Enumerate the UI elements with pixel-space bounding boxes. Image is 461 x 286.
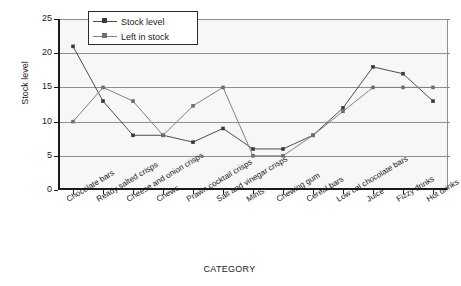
y-axis-title: Stock level [20,38,30,128]
series-point-marker [431,86,435,90]
series-point-marker [101,86,105,90]
y-tick-label: 10 [30,116,52,126]
series-point-marker [161,133,165,137]
series-line [73,87,433,155]
series-point-marker [341,106,345,110]
legend-item-left-in-stock: Left in stock [93,29,193,44]
y-tick-label: 0 [30,184,52,194]
legend-item-label: Left in stock [117,32,169,42]
series-point-marker [191,140,195,144]
y-tick-label: 5 [30,150,52,160]
y-tick-label: 20 [30,47,52,57]
series-point-marker [431,99,435,103]
series-point-marker [221,86,225,90]
series-point-marker [251,154,255,158]
legend-item-stock-level: Stock level [93,14,193,29]
series-point-marker [131,133,135,137]
series-line [73,46,433,149]
series-point-marker [311,133,315,137]
series-point-marker [191,104,195,108]
legend-marker-icon [93,32,117,41]
series-point-marker [371,65,375,69]
series-point-marker [401,86,405,90]
y-tick-label: 25 [30,13,52,23]
series-point-marker [71,120,75,124]
series-point-marker [101,99,105,103]
series-point-marker [341,110,345,114]
series-point-marker [71,45,75,49]
series-point-marker [281,147,285,151]
series-point-marker [371,86,375,90]
series-point-marker [221,127,225,131]
legend-marker-icon [93,17,117,26]
series-point-marker [401,72,405,76]
series-point-marker [251,147,255,151]
x-axis-title: CATEGORY [0,264,459,274]
y-tick-label: 15 [30,81,52,91]
legend-item-label: Stock level [117,17,165,27]
legend: Stock level Left in stock [88,11,198,45]
y-tick-mark [54,190,58,191]
series-point-marker [131,99,135,103]
